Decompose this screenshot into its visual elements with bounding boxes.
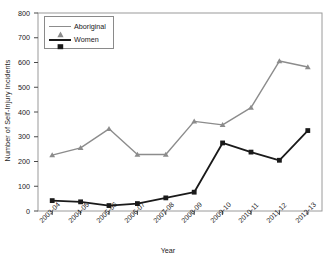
data-point-square (249, 150, 254, 155)
data-point-square (277, 158, 282, 163)
y-tick-label: 400 (8, 108, 30, 117)
x-axis-title: Year (0, 246, 336, 255)
y-tick-label: 800 (8, 9, 30, 18)
y-tick-label: 0 (8, 207, 30, 216)
series-aboriginal (49, 58, 310, 157)
data-point-square (192, 190, 197, 195)
legend-swatch-women (49, 35, 71, 45)
y-tick-label: 600 (8, 58, 30, 67)
square-marker-icon (57, 36, 64, 54)
data-point-square (220, 141, 225, 146)
series-line (52, 61, 308, 155)
y-tick-label: 500 (8, 83, 30, 92)
y-tick-label: 200 (8, 157, 30, 166)
y-tick-label: 300 (8, 132, 30, 141)
data-point-square (305, 128, 310, 133)
series-women (50, 128, 310, 208)
data-point-triangle (277, 58, 283, 63)
data-point-square (163, 195, 168, 200)
legend-label-aboriginal: Aboriginal (74, 22, 106, 31)
y-tick-label: 700 (8, 33, 30, 42)
chart-legend: Aboriginal Women (44, 16, 114, 49)
y-tick-label: 100 (8, 182, 30, 191)
legend-swatch-aboriginal (49, 22, 71, 32)
data-point-triangle (106, 126, 112, 131)
legend-item-women: Women (49, 33, 109, 46)
legend-label-women: Women (74, 35, 99, 44)
legend-item-aboriginal: Aboriginal (49, 20, 109, 33)
self-injury-incidents-line-chart: Number of Self-Injury Incidents Year Abo… (0, 0, 336, 262)
